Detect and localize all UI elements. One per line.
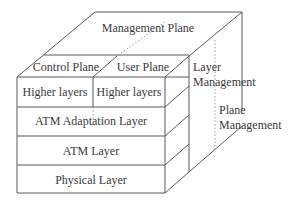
higher-layers-right-label: Higher layers	[97, 85, 162, 99]
atm-reference-model-diagram: Management Plane Control Plane User Plan…	[0, 0, 301, 203]
layer-management-label-line2: Management	[193, 75, 256, 89]
plane-management-label-line1: Plane	[219, 103, 246, 117]
atm-layer-label: ATM Layer	[63, 144, 119, 158]
control-plane-label: Control Plane	[33, 60, 99, 74]
user-plane-label: User Plane	[117, 60, 169, 74]
atm-adaptation-layer-label: ATM Adaptation Layer	[35, 114, 147, 128]
plane-management-label-line2: Management	[219, 118, 282, 132]
layer-management-label-line1: Layer	[193, 60, 221, 74]
higher-layers-left-label: Higher layers	[23, 85, 88, 99]
physical-layer-label: Physical Layer	[55, 173, 127, 187]
management-plane-label: Management Plane	[102, 21, 194, 35]
